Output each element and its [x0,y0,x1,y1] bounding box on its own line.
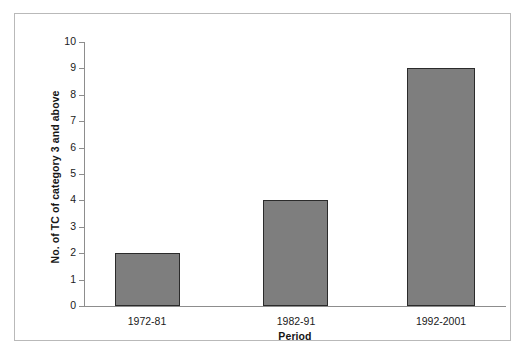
chart-figure: No. of TC of category 3 and above 10 9 8… [0,0,524,352]
x-axis-title: Period [84,330,506,342]
y-tick-mark [79,121,84,122]
figure-frame: No. of TC of category 3 and above 10 9 8… [14,13,511,341]
y-tick-mark [79,306,84,307]
y-tick-label: 5 [70,166,76,181]
y-tick-10: 10 [84,42,85,43]
y-tick-6: 6 [84,148,85,149]
bar-1[interactable] [263,200,328,306]
y-tick-mark [79,68,84,69]
y-tick-5: 5 [84,174,85,175]
y-axis-title: No. of TC of category 3 and above [47,42,63,312]
x-axis-line [84,306,506,307]
y-tick-mark [79,227,84,228]
y-tick-label: 10 [64,34,76,49]
plot-area: 10 9 8 7 6 5 4 [84,42,506,307]
x-tick-label-0: 1972-81 [107,314,187,328]
y-tick-9: 9 [84,68,85,69]
y-tick-mark [79,95,84,96]
y-tick-mark [79,200,84,201]
y-tick-label: 8 [70,87,76,102]
y-tick-3: 3 [84,227,85,228]
bar-0[interactable] [115,253,180,306]
y-tick-mark [79,280,84,281]
x-tick-label-1: 1982-91 [256,314,336,328]
y-tick-label: 0 [70,298,76,313]
y-tick-mark [79,253,84,254]
y-tick-4: 4 [84,200,85,201]
y-tick-label: 9 [70,60,76,75]
x-tick-label-2: 1992-2001 [401,314,481,328]
y-tick-2: 2 [84,253,85,254]
y-tick-7: 7 [84,121,85,122]
y-tick-label: 1 [70,272,76,287]
y-tick-mark [79,174,84,175]
y-tick-label: 3 [70,219,76,234]
y-tick-mark [79,42,84,43]
y-tick-label: 7 [70,113,76,128]
y-tick-mark [79,148,84,149]
y-tick-0: 0 [84,306,85,307]
y-tick-label: 4 [70,192,76,207]
bar-2[interactable] [407,68,475,306]
y-tick-1: 1 [84,280,85,281]
y-tick-label: 2 [70,245,76,260]
y-tick-8: 8 [84,95,85,96]
y-tick-label: 6 [70,140,76,155]
